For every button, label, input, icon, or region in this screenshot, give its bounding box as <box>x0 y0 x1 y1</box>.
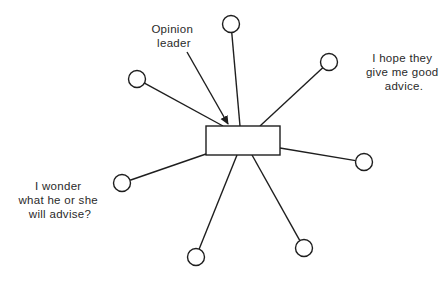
node-top <box>223 16 240 33</box>
edge-top <box>232 32 240 126</box>
opinion-leader-diagram: Opinion leader I hope they give me good … <box>0 0 444 281</box>
node-upper-right <box>321 54 338 71</box>
label-opinion-leader-line-1: Opinion <box>151 23 193 35</box>
edge-upper-right <box>260 68 323 126</box>
label-opinion-leader-line-2: leader <box>157 37 191 49</box>
edge-bottom <box>199 155 237 249</box>
node-top-left <box>129 71 146 88</box>
edge-left <box>130 154 206 180</box>
node-left <box>114 175 131 192</box>
edge-lower-right <box>252 155 300 241</box>
edge-right <box>280 148 356 161</box>
label-wonder-line-2: what he or she <box>17 194 98 206</box>
label-hope-line-1: I hope they <box>372 52 432 64</box>
label-wonder: I wonder what he or she will advise? <box>17 180 101 220</box>
label-wonder-line-1: I wonder <box>35 180 82 192</box>
label-opinion-leader: Opinion leader <box>151 23 196 49</box>
node-lower-right <box>296 240 313 257</box>
opinion-leader-box <box>206 126 280 155</box>
label-wonder-line-3: will advise? <box>28 208 91 220</box>
edge-top-left <box>144 83 223 126</box>
label-hope-line-3: advice. <box>385 80 424 92</box>
node-bottom <box>188 249 205 266</box>
label-hope-line-2: give me good <box>366 66 439 78</box>
label-hope: I hope they give me good advice. <box>366 52 442 92</box>
node-right <box>356 154 373 171</box>
arrow-to-opinion-leader <box>187 52 228 124</box>
